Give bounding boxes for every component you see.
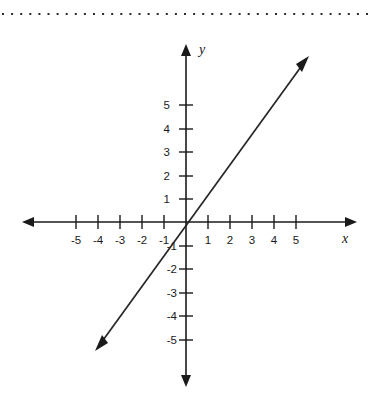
y-axis: 5 4 3 2 1 -1 -2 -3 -4 -5 y [164,42,206,387]
x-tick-label--2: -2 [137,234,147,246]
x-axis-arrow-right-icon [345,217,357,227]
y-tick-label-5: 5 [164,99,170,111]
y-axis-arrow-up-icon [181,44,191,56]
coordinate-plane-svg: -5 -4 -3 -2 -1 1 2 3 4 5 x [0,0,372,405]
y-tick-label-1: 1 [164,193,170,205]
y-tick-label-4: 4 [164,123,171,135]
y-tick-label--2: -2 [167,263,177,275]
y-tick-label-3: 3 [164,146,170,158]
y-axis-label: y [197,42,206,57]
plotted-line-series [95,56,309,351]
x-tick-label--5: -5 [71,234,81,246]
y-tick-label--3: -3 [167,287,177,299]
graph-figure: -5 -4 -3 -2 -1 1 2 3 4 5 x [0,0,372,405]
x-tick-label-2: 2 [227,234,233,246]
x-tick-label-4: 4 [271,234,278,246]
x-tick-label--3: -3 [115,234,125,246]
y-tick-label-2: 2 [164,170,170,182]
y-axis-arrow-down-icon [181,375,191,387]
x-tick-label-3: 3 [249,234,255,246]
line-y-equals-x [101,64,303,343]
x-tick-label--4: -4 [93,234,104,246]
y-tick-label--5: -5 [167,334,177,346]
x-tick-label-5: 5 [293,234,299,246]
y-tick-label--4: -4 [167,310,178,322]
x-axis-label: x [341,231,349,246]
x-tick-label-1: 1 [205,234,211,246]
x-axis-arrow-left-icon [22,217,34,227]
